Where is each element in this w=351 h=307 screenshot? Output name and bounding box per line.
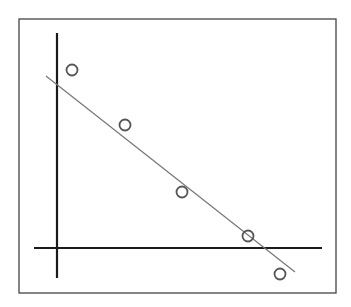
data-point-marker xyxy=(275,269,286,280)
chart-frame xyxy=(19,19,336,293)
data-point-marker xyxy=(177,187,188,198)
scatter-chart xyxy=(0,0,351,307)
data-point-marker xyxy=(243,231,254,242)
regression-line xyxy=(46,76,295,272)
data-point-marker xyxy=(67,65,78,76)
data-point-marker xyxy=(120,120,131,131)
